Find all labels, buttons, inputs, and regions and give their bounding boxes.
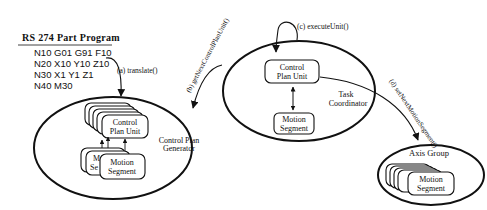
program-line-4: N40 M30 xyxy=(34,80,73,91)
generator-cpu-label-1: Control xyxy=(113,118,138,127)
arrow-c-icon xyxy=(276,22,297,52)
coordinator-cpu-label-1: Control xyxy=(280,63,305,72)
arrow-d-label: (d) setNextMotionSegment() xyxy=(387,78,439,150)
arrow-d-icon xyxy=(320,77,418,140)
coordinator-ms-label-1: Motion xyxy=(282,115,306,124)
architecture-diagram: RS 274 Part Program N10 G01 G91 F10 N20 … xyxy=(0,0,487,210)
program-line-1: N10 G01 G91 F10 xyxy=(34,47,112,58)
generator-cpu-label-2: Plan Unit xyxy=(110,127,141,136)
coordinator-label-1: Task xyxy=(339,90,354,99)
coordinator-ms-label-2: Segment xyxy=(280,124,309,133)
axis-ms-label-1: Motion xyxy=(419,175,443,184)
axis-group-label: Axis Group xyxy=(409,148,449,158)
task-coordinator: (c) executeUnit() Control Plan Unit Moti… xyxy=(223,22,375,141)
arrow-translate: (a) translate() xyxy=(106,58,158,96)
coordinator-cpu-label-2: Plan Unit xyxy=(277,72,308,81)
arrow-set-next-motion-segment: (d) setNextMotionSegment() xyxy=(320,77,440,150)
program-line-3: N30 X1 Y1 Z1 xyxy=(34,69,94,80)
ms-partial-label-2: Se xyxy=(90,163,98,172)
arrow-a-label: (a) translate() xyxy=(117,66,158,75)
part-program: RS 274 Part Program N10 G01 G91 F10 N20 … xyxy=(18,32,120,91)
ms-partial-label-1: M xyxy=(93,154,100,163)
axis-group: Axis Group Motion Segment xyxy=(378,145,484,205)
program-title: RS 274 Part Program xyxy=(22,32,120,43)
generator-ms-label-2: Segment xyxy=(108,167,137,176)
program-line-2: N20 X10 Y10 Z10 xyxy=(34,58,109,69)
coordinator-label-2: Coordinator xyxy=(329,99,368,108)
generator-label-2: Generator xyxy=(163,144,195,153)
axis-ms-label-2: Segment xyxy=(417,184,446,193)
arrow-c-label: (c) executeUnit() xyxy=(297,22,349,31)
control-plan-generator: Control Plan Unit M Se Motion Segment Co… xyxy=(34,97,199,199)
generator-ms-label-1: Motion xyxy=(110,158,134,167)
